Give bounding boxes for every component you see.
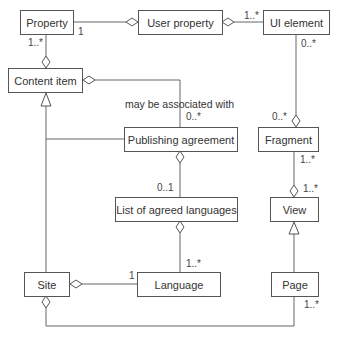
aggregation-diamond-icon xyxy=(42,296,50,308)
multiplicity-label: 1..* xyxy=(28,38,43,48)
class-ui-element: UI element xyxy=(263,10,330,35)
aggregation-diamond-icon xyxy=(126,18,138,26)
class-fragment: Fragment xyxy=(258,127,319,152)
multiplicity-label: 1 xyxy=(78,27,84,37)
class-property: Property xyxy=(20,10,74,35)
multiplicity-label: 1..* xyxy=(300,155,315,165)
class-view: View xyxy=(270,197,319,222)
aggregation-diamond-icon xyxy=(42,56,50,68)
multiplicity-label: 0..1 xyxy=(157,183,174,193)
multiplicity-label: 1..* xyxy=(304,300,319,310)
multiplicity-label: 0..* xyxy=(186,112,201,122)
aggregation-diamond-icon xyxy=(176,151,184,163)
class-user-property: User property xyxy=(138,10,223,35)
class-language: Language xyxy=(137,272,221,297)
aggregation-diamond-icon xyxy=(70,280,82,288)
aggregation-diamond-icon xyxy=(222,18,234,26)
association-note: may be associated with xyxy=(125,99,234,110)
class-content-item: Content item xyxy=(8,68,83,93)
multiplicity-label: 1 xyxy=(129,271,135,281)
generalization-triangle-icon xyxy=(289,222,299,234)
aggregation-diamond-icon xyxy=(176,221,184,233)
connector-page-site xyxy=(46,296,294,326)
multiplicity-label: 1..* xyxy=(186,259,201,269)
aggregation-diamond-icon xyxy=(292,115,300,127)
class-publishing-agreement: Publishing agreement xyxy=(124,127,238,152)
multiplicity-label: 0..* xyxy=(272,112,287,122)
generalization-triangle-icon xyxy=(41,93,51,106)
class-site: Site xyxy=(24,272,70,297)
multiplicity-label: 1..* xyxy=(303,184,318,194)
class-page: Page xyxy=(271,272,319,297)
multiplicity-label: 1..* xyxy=(244,11,259,21)
aggregation-diamond-icon xyxy=(290,185,298,197)
aggregation-diamond-icon xyxy=(83,76,95,84)
class-list-of-agreed-languages: List of agreed languages xyxy=(115,197,238,222)
multiplicity-label: 0..* xyxy=(301,39,316,49)
